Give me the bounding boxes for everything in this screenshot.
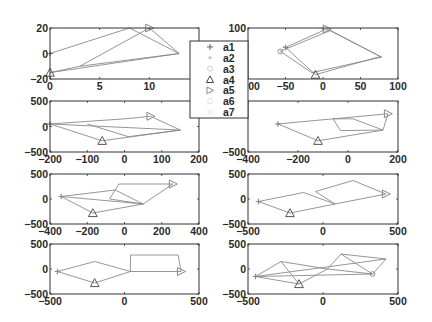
- data-line: [373, 259, 387, 274]
- x-tick-label: 200: [389, 153, 407, 165]
- x-tick-label: 5: [97, 80, 103, 92]
- x-tick-label: 0: [122, 225, 128, 237]
- data-line: [259, 202, 291, 214]
- data-line: [80, 28, 150, 66]
- plot-lines: [256, 254, 387, 284]
- x-tick-label: 0: [320, 295, 326, 307]
- data-line: [328, 254, 342, 269]
- data-line: [290, 204, 335, 213]
- legend-label: a7: [223, 106, 235, 118]
- x-tick-label: 0: [122, 295, 128, 307]
- plot-lines: [50, 116, 180, 140]
- data-line: [256, 277, 300, 285]
- subplot-row2-right: −400−2000200−500: [222, 101, 407, 165]
- axes-frame: [50, 174, 199, 224]
- x-tick-label: 0: [345, 153, 351, 165]
- data-line: [353, 119, 383, 130]
- y-tick-label: 500: [228, 168, 246, 180]
- data-line: [318, 130, 383, 141]
- y-tick-label: 100: [228, 22, 246, 34]
- axes-frame: [50, 244, 199, 294]
- data-line: [95, 262, 131, 272]
- subplot-row3-right: −5000500−5000500: [222, 168, 407, 237]
- data-line: [95, 272, 131, 284]
- y-tick-label: 0: [240, 263, 246, 275]
- x-tick-label: −50: [277, 80, 295, 92]
- y-tick-label: −500: [24, 146, 48, 158]
- y-tick-label: 0: [42, 121, 48, 133]
- data-line: [335, 194, 386, 204]
- y-tick-label: 0: [240, 193, 246, 205]
- subplot-row3-left: −400−2000200400−5000500: [24, 168, 208, 237]
- x-tick-label: −200: [75, 225, 99, 237]
- data-line: [50, 119, 125, 124]
- y-tick-label: 500: [30, 168, 48, 180]
- data-line: [286, 47, 316, 74]
- marker-a1-plus-icon: [58, 194, 64, 200]
- y-tick-label: 500: [30, 238, 48, 250]
- data-line: [316, 56, 382, 74]
- y-tick-label: −500: [222, 218, 246, 230]
- subplot-row1-left: 0510−20020: [30, 22, 199, 92]
- axes-frame: [248, 101, 398, 152]
- x-tick-label: −200: [286, 153, 310, 165]
- y-tick-label: −500: [222, 288, 246, 300]
- y-tick-label: 0: [42, 193, 48, 205]
- marker-a1-plus-icon: [55, 269, 61, 275]
- data-line: [151, 116, 181, 130]
- data-line: [128, 130, 180, 137]
- data-line: [57, 272, 94, 284]
- data-line: [299, 269, 328, 284]
- x-tick-label: 50: [355, 80, 367, 92]
- x-tick-label: 500: [190, 295, 208, 307]
- y-tick-label: 0: [42, 263, 48, 275]
- x-tick-label: 200: [153, 225, 171, 237]
- data-line: [333, 119, 341, 131]
- y-tick-label: −500: [24, 218, 48, 230]
- data-line: [341, 130, 384, 131]
- data-line: [256, 262, 282, 277]
- legend-box: [190, 41, 248, 118]
- plot-lines: [259, 181, 387, 214]
- marker-a5-triangle-right-icon: [382, 190, 390, 198]
- plot-lines: [50, 28, 179, 73]
- x-tick-label: 500: [389, 225, 407, 237]
- y-tick-label: 500: [30, 95, 48, 107]
- figure-canvas: 0510−20020−100−50050100100−200−100010020…: [0, 0, 432, 322]
- data-line: [80, 54, 179, 67]
- subplot-row4-right: −5000500−5000500: [222, 238, 407, 307]
- x-tick-label: 400: [190, 225, 208, 237]
- data-line: [50, 66, 80, 72]
- y-tick-label: −500: [222, 146, 246, 158]
- data-line: [50, 28, 129, 54]
- marker-a1-plus-icon: [253, 274, 259, 280]
- y-tick-label: −20: [30, 73, 48, 85]
- x-tick-label: 0: [320, 80, 326, 92]
- plot-lines: [61, 184, 173, 213]
- x-tick-label: −100: [75, 153, 99, 165]
- data-line: [87, 124, 128, 137]
- subplot-row1-right: −100−50050100100: [228, 22, 406, 92]
- x-tick-label: 200: [190, 153, 208, 165]
- y-tick-label: 0: [42, 48, 48, 60]
- x-tick-label: 100: [153, 153, 171, 165]
- data-line: [143, 184, 173, 204]
- plot-lines: [280, 29, 381, 75]
- data-line: [280, 51, 312, 72]
- marker-a1-plus-icon: [256, 199, 262, 205]
- data-line: [50, 124, 180, 130]
- data-line: [353, 181, 386, 195]
- legend: a1a2a3a4a5a6a7: [190, 41, 248, 118]
- data-line: [259, 193, 304, 202]
- data-line: [93, 204, 143, 213]
- data-line: [316, 181, 354, 192]
- marker-a1-plus-icon: [275, 121, 281, 127]
- plot-markers: [256, 190, 391, 217]
- x-tick-label: 0: [122, 153, 128, 165]
- data-line: [61, 190, 115, 197]
- plot-lines: [57, 255, 181, 283]
- y-tick-label: −500: [24, 288, 48, 300]
- data-line: [286, 29, 327, 47]
- data-line: [331, 30, 382, 57]
- y-tick-label: 500: [228, 238, 246, 250]
